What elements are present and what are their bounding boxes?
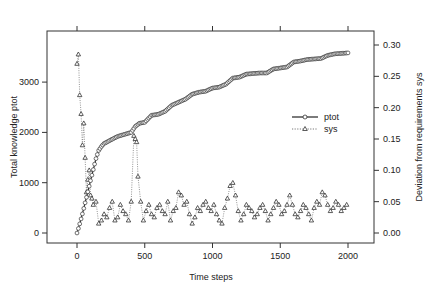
- sys-triangle-marker: [331, 206, 335, 210]
- sys-triangle-marker: [129, 199, 133, 203]
- sys-triangle-marker: [136, 174, 140, 178]
- sys-triangle-marker: [206, 206, 210, 210]
- ptot-circle-marker: [85, 195, 89, 199]
- y-axis-left: 0100020003000: [19, 77, 47, 238]
- sys-triangle-marker: [290, 202, 294, 206]
- sys-triangle-marker: [285, 202, 289, 206]
- sys-triangle-marker: [298, 209, 302, 213]
- sys-triangle-marker: [149, 212, 153, 216]
- sys-triangle-marker: [271, 206, 275, 210]
- legend-sys-triangle-icon: [303, 127, 308, 131]
- sys-triangle-marker: [195, 206, 199, 210]
- sys-triangle-marker: [312, 206, 316, 210]
- sys-triangle-marker: [325, 202, 329, 206]
- sys-triangle-marker: [263, 209, 267, 213]
- y2-tick-label: 0.25: [383, 71, 401, 81]
- x-tick-label: 0: [74, 251, 79, 261]
- sys-triangle-marker: [214, 212, 218, 216]
- sys-triangle-marker: [82, 121, 86, 125]
- x-tick-label: 1500: [270, 251, 290, 261]
- sys-triangle-marker: [217, 218, 221, 222]
- sys-triangle-marker: [301, 202, 305, 206]
- sys-triangle-marker: [107, 206, 111, 210]
- y-tick-label: 1000: [19, 178, 39, 188]
- y-axis-right: 0.000.050.100.150.200.250.30: [374, 40, 401, 238]
- sys-triangle-marker: [144, 209, 148, 213]
- ptot-circle-marker: [94, 157, 98, 161]
- y-axis-title: Total knowledge ptot: [9, 95, 19, 178]
- sys-triangle-marker: [274, 199, 278, 203]
- sys-triangle-marker: [157, 202, 161, 206]
- sys-triangle-marker: [288, 193, 292, 197]
- legend-ptot-label: ptot: [324, 112, 340, 122]
- sys-triangle-marker: [76, 52, 80, 56]
- legend-ptot-circle-icon: [303, 115, 307, 119]
- y-tick-label: 2000: [19, 127, 39, 137]
- sys-triangle-marker: [320, 190, 324, 194]
- sys-triangle-marker: [315, 199, 319, 203]
- ptot-circle-marker: [346, 51, 350, 55]
- ptot-circle-marker: [75, 231, 79, 235]
- y2-tick-label: 0.10: [383, 165, 401, 175]
- sys-triangle-marker: [255, 212, 259, 216]
- sys-triangle-marker: [141, 218, 145, 222]
- sys-triangle-marker: [282, 209, 286, 213]
- sys-triangle-marker: [83, 155, 87, 159]
- sys-triangle-marker: [79, 112, 83, 116]
- ptot-circle-marker: [95, 153, 99, 157]
- y-tick-label: 3000: [19, 77, 39, 87]
- sys-triangle-marker: [269, 212, 273, 216]
- y2-tick-label: 0.20: [383, 103, 401, 113]
- ptot-circle-marker: [79, 217, 83, 221]
- sys-triangle-marker: [78, 93, 82, 97]
- sys-triangle-marker: [190, 221, 194, 225]
- sys-triangle-marker: [126, 218, 130, 222]
- y2-tick-label: 0.00: [383, 228, 401, 238]
- sys-triangle-marker: [222, 206, 226, 210]
- sys-triangle-marker: [99, 218, 103, 222]
- sys-triangle-marker: [115, 215, 119, 219]
- x-tick-label: 1000: [202, 251, 222, 261]
- sys-triangle-marker: [121, 209, 125, 213]
- sys-triangle-marker: [110, 199, 114, 203]
- sys-triangle-marker: [102, 212, 106, 216]
- sys-triangle-marker: [307, 212, 311, 216]
- x-axis-title: Time steps: [189, 272, 233, 282]
- sys-triangle-marker: [160, 209, 164, 213]
- sys-triangle-marker: [233, 193, 237, 197]
- sys-triangle-marker: [138, 199, 142, 203]
- ptot-circle-marker: [89, 179, 93, 183]
- sys-triangle-marker: [80, 143, 84, 147]
- sys-triangle-marker: [176, 190, 180, 194]
- sys-triangle-marker: [174, 206, 178, 210]
- y2-axis-title: Deviation from requirements sys: [414, 72, 424, 202]
- x-tick-label: 2000: [338, 251, 358, 261]
- legend: ptot sys: [292, 112, 340, 134]
- sys-triangle-marker: [118, 202, 122, 206]
- ptot-circle-marker: [83, 201, 87, 205]
- sys-triangle-marker: [225, 196, 229, 200]
- sys-triangle-marker: [334, 199, 338, 203]
- sys-triangle-marker: [193, 215, 197, 219]
- ptot-circle-marker: [91, 168, 95, 172]
- sys-triangle-marker: [236, 209, 240, 213]
- sys-triangle-marker: [166, 199, 170, 203]
- sys-triangle-marker: [204, 199, 208, 203]
- sys-triangle-marker: [260, 202, 264, 206]
- sys-triangle-marker: [231, 180, 235, 184]
- ptot-circle-marker: [81, 212, 85, 216]
- ptot-circle-marker: [90, 173, 94, 177]
- sys-triangle-marker: [241, 212, 245, 216]
- ptot-circle-marker: [82, 207, 86, 211]
- ptot-circle-marker: [87, 184, 91, 188]
- sys-triangle-marker: [344, 202, 348, 206]
- sys-triangle-marker: [309, 218, 313, 222]
- sys-triangle-marker: [147, 202, 151, 206]
- y2-tick-label: 0.30: [383, 40, 401, 50]
- sys-triangle-marker: [168, 218, 172, 222]
- sys-triangle-marker: [266, 218, 270, 222]
- dual-axis-line-chart: 0500100015002000 0100020003000 0.000.050…: [0, 0, 433, 294]
- sys-triangle-marker: [293, 212, 297, 216]
- sys-triangle-marker: [212, 202, 216, 206]
- y2-tick-label: 0.05: [383, 197, 401, 207]
